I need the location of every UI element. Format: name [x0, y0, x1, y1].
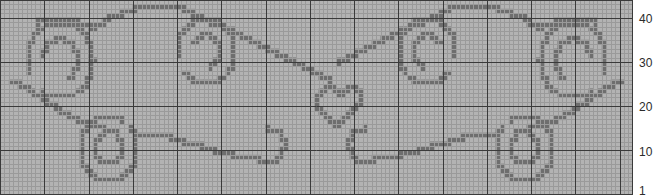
row-label-30: 30 — [639, 57, 653, 69]
row-label-axis: 40 30 20 10 1 — [633, 0, 668, 195]
row-label-1: 1 — [639, 185, 646, 195]
row-label-40: 40 — [639, 13, 653, 25]
stitch-pattern-canvas — [0, 0, 633, 195]
row-label-10: 10 — [639, 146, 653, 158]
cross-stitch-chart: 40 30 20 10 1 — [0, 0, 668, 195]
row-label-20: 20 — [639, 101, 653, 113]
pattern-grid[interactable] — [0, 0, 633, 195]
